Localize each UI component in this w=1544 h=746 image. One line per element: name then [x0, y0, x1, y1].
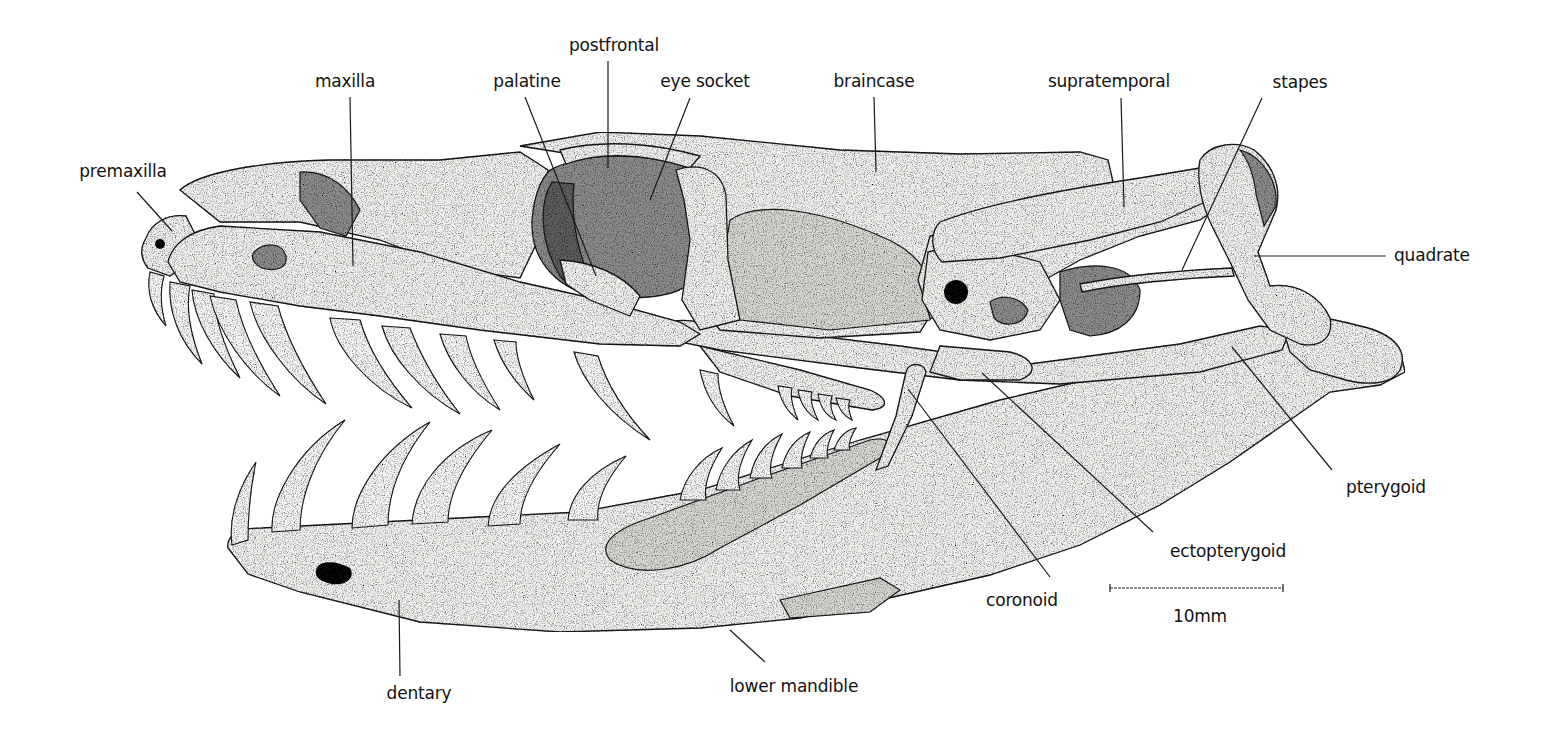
label-supratemporal: supratemporal — [1048, 71, 1170, 91]
label-pterygoid: pterygoid — [1346, 477, 1426, 497]
snake-skull-diagram: premaxilla maxilla palatine postfrontal … — [0, 0, 1544, 746]
scale-bar-label: 10mm — [1173, 606, 1227, 626]
label-premaxilla: premaxilla — [79, 161, 167, 181]
label-lower-mandible: lower mandible — [730, 676, 858, 696]
label-eye-socket: eye socket — [660, 71, 749, 91]
skull-illustration — [0, 0, 1544, 746]
label-postfrontal: postfrontal — [569, 35, 659, 55]
label-stapes: stapes — [1273, 72, 1328, 92]
label-maxilla: maxilla — [315, 71, 375, 91]
label-ectopterygoid: ectopterygoid — [1170, 541, 1286, 561]
leader-line-lower_mandible — [730, 630, 765, 662]
label-quadrate: quadrate — [1394, 245, 1470, 265]
scale-bar — [1110, 584, 1283, 592]
label-braincase: braincase — [834, 71, 915, 91]
label-coronoid: coronoid — [986, 590, 1058, 610]
label-dentary: dentary — [387, 683, 452, 703]
label-palatine: palatine — [493, 71, 560, 91]
